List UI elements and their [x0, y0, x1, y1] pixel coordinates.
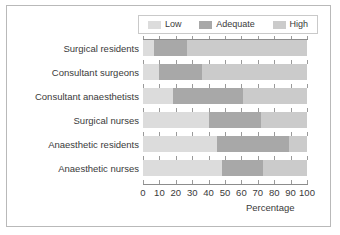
bar-segment-adequate — [217, 136, 289, 152]
x-axis-line — [143, 184, 308, 185]
category-label: Consultant surgeons — [17, 68, 139, 78]
category-label: Anaesthetic nurses — [17, 164, 139, 174]
legend-label-high: High — [290, 20, 309, 29]
category-label: Anaesthetic residents — [17, 140, 139, 150]
x-tick-label: 80 — [269, 188, 280, 198]
bar-segment-low — [143, 64, 159, 80]
bar-segment-high — [187, 40, 307, 56]
bar-segment-low — [143, 136, 217, 152]
bar-segment-low — [143, 112, 209, 128]
bar-segment-adequate — [222, 160, 263, 176]
chart-figure: Low Adequate High Surgical residentsCons… — [6, 5, 331, 227]
gridline-tick — [307, 156, 308, 160]
x-axis-title: Percentage — [246, 202, 295, 213]
plot-top-rule — [143, 39, 308, 40]
x-tick-label: 20 — [171, 188, 182, 198]
chart-legend: Low Adequate High — [138, 15, 318, 34]
x-tick-label: 40 — [203, 188, 214, 198]
category-label: Surgical nurses — [17, 116, 139, 126]
bar-segment-low — [143, 160, 222, 176]
legend-swatch-adequate — [199, 21, 212, 29]
bar-row — [143, 88, 307, 104]
category-label: Consultant anaesthetists — [17, 92, 139, 102]
legend-swatch-high — [273, 21, 286, 29]
x-tick-label: 60 — [236, 188, 247, 198]
bar-row — [143, 160, 307, 176]
gridline-tick — [307, 60, 308, 64]
bar-segment-low — [143, 88, 173, 104]
category-axis-labels: Surgical residentsConsultant surgeonsCon… — [13, 40, 139, 184]
bar-segment-high — [289, 136, 307, 152]
bar-segment-adequate — [209, 112, 261, 128]
bar-row — [143, 40, 307, 56]
x-tick-label: 30 — [187, 188, 198, 198]
bar-segment-adequate — [159, 64, 202, 80]
x-tick-label: 10 — [154, 188, 165, 198]
x-tick-label: 100 — [299, 188, 315, 198]
legend-item-low[interactable]: Low — [148, 20, 182, 29]
bar-segment-adequate — [154, 40, 187, 56]
bar-row — [143, 112, 307, 128]
value-axis-labels: 0102030405060708090100 — [143, 188, 313, 200]
legend-label-adequate: Adequate — [216, 20, 255, 29]
bar-segment-high — [243, 88, 307, 104]
gridline-tick — [307, 132, 308, 136]
bar-row — [143, 136, 307, 152]
x-tick-label: 90 — [285, 188, 296, 198]
bar-segment-high — [202, 64, 307, 80]
bar-segment-low — [143, 40, 154, 56]
legend-label-low: Low — [165, 20, 182, 29]
category-label: Surgical residents — [17, 44, 139, 54]
legend-swatch-low — [148, 21, 161, 29]
legend-item-adequate[interactable]: Adequate — [199, 20, 255, 29]
x-tick-label: 0 — [140, 188, 145, 198]
gridline-tick — [307, 108, 308, 112]
bar-row — [143, 64, 307, 80]
legend-item-high[interactable]: High — [273, 20, 309, 29]
x-tick-label: 70 — [253, 188, 264, 198]
plot-area — [143, 40, 307, 184]
bar-segment-high — [263, 160, 307, 176]
x-tick-label: 50 — [220, 188, 231, 198]
gridline-tick — [307, 84, 308, 88]
bar-segment-adequate — [173, 88, 244, 104]
bar-segment-high — [261, 112, 307, 128]
